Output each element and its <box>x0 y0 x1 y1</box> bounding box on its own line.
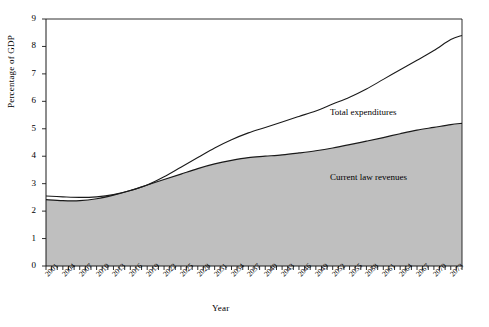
chart-plot-area <box>0 0 489 327</box>
x-axis-title: Year <box>212 303 229 313</box>
y-tick-label: 2 <box>22 205 36 215</box>
y-tick-label: 4 <box>22 150 36 160</box>
chart-figure: Percentage of GDP Year Total expenditure… <box>0 0 489 327</box>
y-tick-label: 5 <box>22 123 36 133</box>
y-tick-label: 0 <box>22 260 36 270</box>
y-tick-label: 8 <box>22 40 36 50</box>
y-axis-ticks <box>42 19 46 266</box>
y-axis-title-text: Percentage of GDP <box>6 94 16 108</box>
y-tick-label: 9 <box>22 13 36 23</box>
y-axis-title: Percentage of GDP <box>4 96 18 106</box>
y-tick-label: 7 <box>22 68 36 78</box>
total-expenditures-label: Total expenditures <box>330 107 397 117</box>
revenues-fill <box>46 123 462 266</box>
current-law-revenues-label: Current law revenues <box>330 172 407 182</box>
y-tick-label: 1 <box>22 233 36 243</box>
y-tick-label: 3 <box>22 178 36 188</box>
y-tick-label: 6 <box>22 95 36 105</box>
